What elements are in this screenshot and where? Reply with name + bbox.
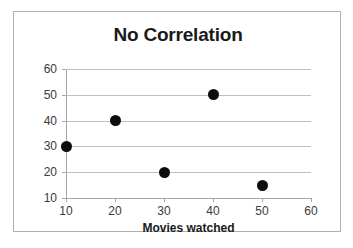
x-tick-label-30: 30	[157, 204, 170, 218]
data-point-0	[61, 141, 72, 152]
y-tick-50	[62, 95, 66, 96]
plot-area: 102030405060 102030405060	[66, 69, 311, 198]
x-tick-30	[164, 198, 165, 202]
y-tick-label-20: 20	[44, 165, 57, 179]
y-tick-label-10: 10	[44, 191, 57, 205]
x-tick-label-60: 60	[304, 204, 317, 218]
gridline-y-20	[66, 172, 311, 173]
x-tick-50	[262, 198, 263, 202]
y-tick-label-30: 30	[44, 139, 57, 153]
data-point-2	[159, 167, 170, 178]
data-point-4	[257, 180, 268, 191]
gridline-y-30	[66, 146, 311, 147]
x-tick-20	[115, 198, 116, 202]
y-tick-label-50: 50	[44, 88, 57, 102]
x-tick-label-20: 20	[108, 204, 121, 218]
x-tick-label-50: 50	[255, 204, 268, 218]
data-point-3	[208, 89, 219, 100]
data-point-1	[110, 115, 121, 126]
gridline-y-40	[66, 121, 311, 122]
y-tick-label-60: 60	[44, 62, 57, 76]
x-tick-label-40: 40	[206, 204, 219, 218]
gridline-y-50	[66, 95, 311, 96]
y-axis-line	[66, 69, 67, 198]
x-tick-40	[213, 198, 214, 202]
gridline-y-60	[66, 69, 311, 70]
y-tick-label-40: 40	[44, 114, 57, 128]
x-tick-label-10: 10	[59, 204, 72, 218]
chart-card: No Correlation 102030405060 102030405060…	[13, 11, 341, 232]
chart-title: No Correlation	[14, 24, 342, 46]
x-tick-60	[311, 198, 312, 202]
x-axis-title: Movies watched	[66, 221, 311, 235]
x-tick-10	[66, 198, 67, 202]
y-tick-60	[62, 69, 66, 70]
y-tick-20	[62, 172, 66, 173]
gridline-y-10	[66, 198, 311, 199]
y-tick-40	[62, 121, 66, 122]
